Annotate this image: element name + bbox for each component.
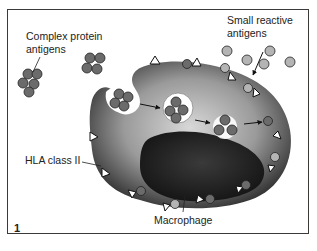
figure-number: 1 xyxy=(14,222,20,235)
small-antigens-label-line1: Small reactive xyxy=(227,14,293,27)
hla-class-ii-label: HLA class II xyxy=(25,154,80,167)
complex-antigens-label-line2: antigens xyxy=(26,43,102,56)
macrophage-label: Macrophage xyxy=(154,214,212,227)
complex-antigens-label-line1: Complex protein xyxy=(26,30,102,43)
complex-antigen-free-1 xyxy=(18,69,42,97)
complex-antigens-label: Complex protein antigens xyxy=(26,30,102,56)
complex-antigen-free-2 xyxy=(82,53,105,74)
small-reactive-antigens xyxy=(222,46,295,69)
small-antigens-label-line2: antigens xyxy=(227,27,293,40)
small-antigens-label: Small reactive antigens xyxy=(227,14,293,40)
